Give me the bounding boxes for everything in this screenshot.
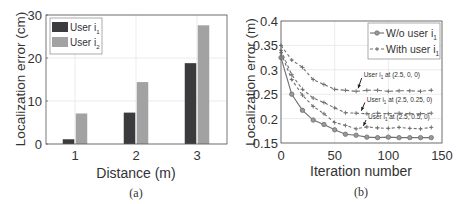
plus-marker [343, 88, 347, 92]
plus-marker [322, 100, 326, 104]
plus-marker [386, 126, 390, 130]
plus-marker [397, 89, 401, 93]
plus-marker [408, 89, 412, 93]
plus-marker [376, 88, 380, 92]
annotation-label: User i1 at (2.5, 0.5, 0) [368, 113, 430, 122]
plus-marker [354, 111, 358, 115]
circle-marker [418, 135, 422, 139]
y-tick-label: 20 [28, 51, 42, 66]
circle-marker [322, 122, 326, 126]
plus-marker [365, 88, 369, 92]
annotation-label: User i1 at (2.5, 0.25, 0) [367, 96, 432, 105]
legend-marker [375, 31, 379, 35]
plus-marker [397, 125, 401, 129]
plus-marker [429, 111, 433, 115]
circle-marker [311, 118, 315, 122]
annotation-label: User i1 at (2.5, 0, 0) [364, 71, 420, 80]
arrow-head-icon [358, 84, 361, 88]
plus-marker [429, 88, 433, 92]
circle-marker [300, 108, 304, 112]
plus-marker [343, 123, 347, 127]
plus-marker [429, 125, 433, 129]
plus-marker [354, 127, 358, 131]
x-axis-label: Iteration number [310, 163, 412, 179]
caption-b: (b) [354, 185, 368, 199]
plus-marker [419, 89, 423, 93]
plus-marker [419, 127, 423, 131]
bar-2-3 [198, 25, 210, 144]
bar-chart-a: 0102030123Distance (m)Localization error… [0, 0, 235, 204]
circle-marker [408, 135, 412, 139]
plus-marker [290, 58, 294, 62]
plus-marker [365, 125, 369, 129]
circle-marker [365, 135, 369, 139]
legend: W/o user i1With user i1 [368, 23, 440, 59]
y-tick-label: 30 [28, 8, 42, 23]
bar-1-1 [63, 139, 75, 144]
legend-swatch [52, 37, 68, 47]
y-tick-label: 0.2 [260, 112, 278, 127]
x-tick-label: 50 [327, 148, 341, 163]
x-axis-label: Distance (m) [96, 165, 175, 181]
x-tick-label: 2 [132, 148, 139, 163]
x-tick-label: 100 [377, 148, 399, 163]
y-tick-label: 0.4 [260, 14, 278, 29]
figure: 0102030123Distance (m)Localization error… [0, 0, 470, 204]
plus-marker [376, 126, 380, 130]
bar-2-1 [76, 113, 88, 144]
plus-marker [322, 82, 326, 86]
circle-marker [429, 135, 433, 139]
circle-marker [375, 135, 379, 139]
caption-a: (a) [129, 186, 142, 200]
x-tick-label: 0 [277, 148, 284, 163]
bar-2-2 [137, 82, 149, 144]
circle-marker [354, 133, 358, 137]
x-tick-label: 3 [193, 148, 200, 163]
circle-marker [290, 92, 294, 96]
y-tick-label: 10 [28, 94, 42, 109]
plus-marker [408, 126, 412, 130]
circle-marker [343, 132, 347, 136]
legend: User i1User i2 [50, 18, 102, 54]
plus-marker [354, 89, 358, 93]
circle-marker [332, 128, 336, 132]
bar-1-2 [124, 113, 136, 144]
plus-marker [333, 87, 337, 91]
legend-swatch [52, 22, 68, 32]
y-tick-label: 0 [35, 137, 42, 152]
plus-marker [343, 111, 347, 115]
circle-marker [397, 135, 401, 139]
line-chart-b: 0.150.20.250.30.350.4050100150Iteration … [235, 0, 470, 204]
y-tick-label: 0.3 [260, 63, 278, 78]
plus-marker [386, 89, 390, 93]
series-line-2 [281, 50, 431, 113]
y-axis-label: Localization error (cm) [13, 12, 28, 146]
plus-marker [290, 78, 294, 82]
circle-marker [386, 135, 390, 139]
x-tick-label: 150 [431, 148, 453, 163]
bar-1-3 [185, 63, 197, 144]
plus-marker [333, 106, 337, 110]
x-tick-label: 1 [71, 148, 78, 163]
y-axis-label: Localization error (m) [243, 18, 258, 146]
